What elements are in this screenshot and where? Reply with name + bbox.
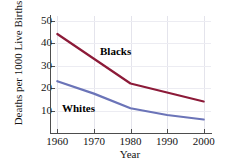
- x-axis-tick-label: 1990: [147, 136, 187, 147]
- y-axis-tick-label: 40: [28, 37, 52, 48]
- x-axis-spine: [50, 133, 212, 134]
- y-axis-tick-label: 30: [28, 60, 52, 71]
- y-axis-tick-label: 50: [28, 15, 52, 26]
- y-axis-tick-label: 10: [28, 105, 52, 116]
- x-axis-title: Year: [45, 148, 215, 160]
- x-axis-tick-label: 1960: [37, 136, 77, 147]
- plot-area: [50, 16, 211, 133]
- infant-mortality-line-chart: Deaths per 1000 Live Births 196019701980…: [0, 0, 227, 166]
- series-annotation-whites: Whites: [62, 102, 95, 114]
- x-axis-tick-label: 1970: [74, 136, 114, 147]
- x-axis-tick-label: 1980: [111, 136, 151, 147]
- x-axis-tick-label: 2000: [184, 136, 224, 147]
- y-axis-tick-label: 20: [28, 82, 52, 93]
- series-annotation-blacks: Blacks: [100, 45, 131, 57]
- series-svg: [50, 16, 211, 133]
- y-axis-title: Deaths per 1000 Live Births: [12, 0, 24, 129]
